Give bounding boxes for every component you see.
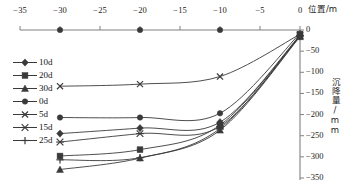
legend-label: 5d: [39, 108, 48, 121]
series-20d: [57, 33, 303, 159]
y-tick-label: −200: [306, 110, 324, 119]
settlement-curve-figure: −35−30−25−20−15−10−50 0−50−100−150−200−2…: [0, 0, 353, 194]
legend-item-10d[interactable]: 10d: [12, 56, 53, 69]
legend-label: 30d: [39, 82, 53, 95]
x-tick-label: −5: [247, 6, 273, 15]
y-tick-label: −150: [306, 88, 324, 97]
series-15d: [56, 32, 304, 145]
y-tick-label: −50: [306, 46, 319, 55]
x-tick-label: −20: [127, 6, 153, 15]
legend-item-30d[interactable]: 30d: [12, 82, 53, 95]
legend-label: 25d: [39, 134, 53, 147]
x-tick-label: −30: [47, 6, 73, 15]
legend-item-5d[interactable]: 5d: [12, 108, 53, 121]
legend-item-15d[interactable]: 15d: [12, 121, 53, 134]
x-axis-title: 位置/m: [308, 5, 337, 14]
y-tick-label: −100: [306, 67, 324, 76]
legend-marker-circle-icon: [12, 95, 38, 108]
x-tick-label: −25: [87, 6, 113, 15]
legend-marker-plus-icon: [12, 134, 38, 147]
plot-area: [0, 0, 353, 194]
y-tick-label: −250: [306, 131, 324, 140]
y-tick-label: −350: [306, 173, 324, 182]
legend-marker-triangle-icon: [12, 82, 38, 95]
legend-item-25d[interactable]: 25d: [12, 134, 53, 147]
legend-item-20d[interactable]: 20d: [12, 69, 53, 82]
legend-marker-square-icon: [12, 69, 38, 82]
legend-label: 20d: [39, 69, 53, 82]
x-tick-label: −15: [167, 6, 193, 15]
y-tick-label: −300: [306, 152, 324, 161]
legend-label: 0d: [39, 95, 48, 108]
legend: 10d20d30d0d5d15d25d: [12, 56, 53, 147]
y-axis-title: 沉降量/mm: [330, 78, 339, 135]
legend-marker-cross-icon: [12, 108, 38, 121]
y-tick-label: 0: [306, 25, 310, 34]
legend-label: 10d: [39, 56, 53, 69]
series-10d: [57, 31, 304, 137]
legend-label: 15d: [39, 121, 53, 134]
series-0d: [57, 31, 303, 121]
x-tick-label: −35: [7, 6, 33, 15]
legend-item-0d[interactable]: 0d: [12, 95, 53, 108]
legend-marker-diamond-icon: [12, 56, 38, 69]
x-tick-label: −10: [207, 6, 233, 15]
chart-canvas: [0, 0, 353, 194]
legend-marker-asterisk-icon: [12, 121, 38, 134]
series-25d: [56, 33, 303, 164]
